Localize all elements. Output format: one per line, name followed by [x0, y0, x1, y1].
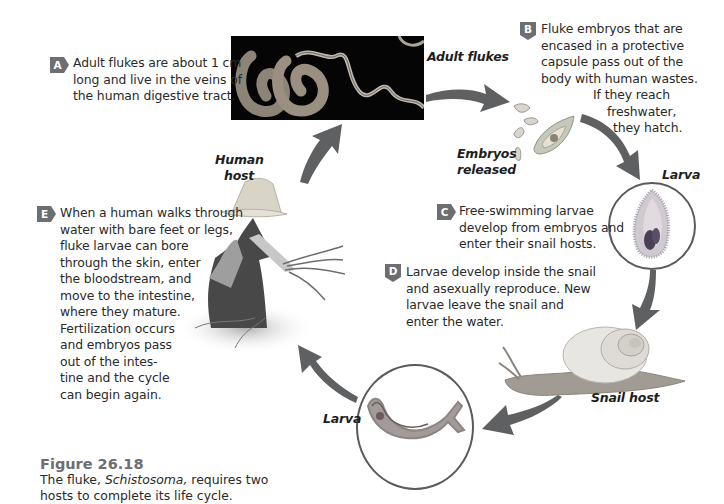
step-b-letter: B — [520, 22, 536, 36]
label-larva-bottom: Larva — [323, 411, 361, 426]
step-d-letter: D — [385, 264, 401, 278]
step-e-line: water with bare feet or legs, — [60, 222, 243, 239]
label-human-line2: host — [215, 168, 263, 184]
cycle-arrow-human-to-flukes — [300, 120, 345, 185]
step-a-line: the human digestive tract. — [73, 88, 242, 105]
label-human-host: Human host — [215, 152, 263, 184]
step-a-line: Adult flukes are about 1 cm — [73, 55, 242, 72]
step-b-badge: B — [520, 22, 536, 40]
step-d-text: Larvae develop inside the snail and asex… — [406, 264, 596, 330]
label-human-line1: Human — [215, 152, 263, 168]
figure-number: Figure 26.18 — [40, 456, 143, 472]
label-embryos-line1: Embryos — [457, 146, 507, 162]
step-e-line: can begin again. — [60, 387, 243, 404]
step-d-line: larvae leave the snail and — [406, 297, 596, 314]
step-a-text: Adult flukes are about 1 cm long and liv… — [73, 55, 242, 105]
step-e-line: move to the intestine, — [60, 288, 243, 305]
label-snail-host: Snail host — [591, 390, 659, 405]
fluke-worms-illustration — [231, 36, 424, 120]
label-adult-flukes: Adult flukes — [427, 49, 509, 64]
step-a-line: long and live in the veins of — [73, 72, 242, 89]
cercaria-larva-illustration — [358, 366, 472, 488]
step-c-letter: C — [437, 204, 452, 220]
caption-genus: Schistosoma, — [105, 472, 188, 487]
step-e-line: and embryos pass — [60, 337, 243, 354]
step-c-badge: C — [437, 204, 456, 220]
step-c-text: Free-swimming larvae develop from embryo… — [459, 203, 624, 253]
figure-caption-line1: The fluke, Schistosoma, requires two — [40, 472, 268, 488]
label-embryos-line2: released — [457, 162, 507, 178]
step-a-badge: A — [50, 57, 69, 73]
step-b-line: Fluke embryos that are — [541, 21, 711, 38]
step-d-line: enter the water. — [406, 314, 596, 331]
step-b-line: body with human wastes. — [541, 71, 711, 88]
step-e-text: When a human walks through water with ba… — [60, 205, 243, 403]
cycle-arrow-larva-to-snail — [628, 270, 668, 330]
step-b-text: Fluke embryos that are encased in a prot… — [541, 21, 711, 137]
cycle-arrow-snail-to-larva — [480, 395, 565, 445]
step-e-line: Fertilization occurs — [60, 321, 243, 338]
step-b-line: encased in a protective — [541, 38, 711, 55]
figure-caption: The fluke, Schistosoma, requires two hos… — [40, 472, 268, 504]
step-e-line: tine and the cycle — [60, 370, 243, 387]
step-e-line: When a human walks through — [60, 205, 243, 222]
step-e-line: fluke larvae can bore — [60, 238, 243, 255]
caption-text: The fluke, — [40, 472, 105, 487]
step-c-line: develop from embryos and — [459, 220, 624, 237]
step-b-line: capsule pass out of the — [541, 54, 711, 71]
step-e-line: through the skin, enter — [60, 255, 243, 272]
step-d-line: and asexually reproduce. New — [406, 281, 596, 298]
label-larva-top: Larva — [662, 167, 700, 182]
cycle-arrow-flukes-to-embryos — [424, 80, 514, 120]
cycle-arrow-larva-to-human — [288, 345, 358, 405]
step-c-line: enter their snail hosts. — [459, 236, 624, 253]
step-a-letter: A — [50, 57, 65, 73]
step-e-line: where they mature. — [60, 304, 243, 321]
figure-caption-line2: hosts to complete its life cycle. — [40, 488, 268, 504]
step-e-badge: E — [37, 206, 56, 222]
label-embryos-released: Embryos released — [457, 146, 507, 178]
larva-circle-bottom — [356, 364, 474, 490]
adult-flukes-photo — [231, 36, 424, 120]
step-c-line: Free-swimming larvae — [459, 203, 624, 220]
step-d-badge: D — [385, 264, 401, 282]
step-b-line: they hatch. — [541, 120, 711, 137]
step-b-line: freshwater, — [541, 104, 711, 121]
step-e-line: out of the intes- — [60, 354, 243, 371]
step-b-line: If they reach — [541, 87, 711, 104]
caption-text: requires two — [187, 472, 268, 487]
step-e-line: the bloodstream, and — [60, 271, 243, 288]
step-e-letter: E — [37, 206, 52, 222]
step-d-line: Larvae develop inside the snail — [406, 264, 596, 281]
